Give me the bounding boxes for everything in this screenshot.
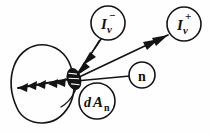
ray-bundle-left-arrowhead-2 [27, 81, 37, 90]
incoming-radiance-superscript: − [109, 9, 116, 21]
ray-incoming-arrowhead-2 [82, 52, 96, 66]
outgoing-radiance-subscript: ν [183, 24, 188, 36]
token-surface-normal[interactable]: n [129, 62, 155, 88]
radiance-diagram-figure: I − ν I + ν n d A n [0, 0, 211, 134]
token-outgoing-radiance[interactable]: I + ν [167, 7, 201, 41]
ray-bundle-left-arrowhead-1 [18, 83, 28, 92]
ray-bundle-left-arrowhead-3 [36, 80, 46, 89]
leader-stub-incoming [95, 41, 99, 48]
area-element-d: d [84, 95, 92, 110]
token-incoming-radiance[interactable]: I − ν [91, 6, 125, 40]
diagram-canvas: I − ν I + ν n d A n [0, 0, 211, 134]
incoming-radiance-subscript: ν [107, 23, 112, 35]
outgoing-radiance-superscript: + [185, 10, 191, 22]
token-area-element[interactable]: d A n [79, 83, 115, 119]
surface-normal-label: n [138, 69, 146, 84]
ray-bundle-left-arrowhead-4 [48, 79, 58, 88]
area-element-a: A [92, 94, 103, 110]
area-element-subscript: n [104, 102, 110, 113]
leader-line-normal [76, 76, 130, 81]
